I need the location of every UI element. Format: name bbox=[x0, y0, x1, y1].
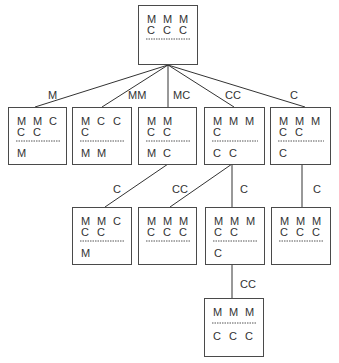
edge-label: MM bbox=[128, 89, 146, 101]
cannibal-token: C bbox=[17, 126, 25, 138]
cannibal-token: C bbox=[81, 126, 89, 138]
cannibal-token: C bbox=[113, 115, 121, 127]
cannibal-token: C bbox=[296, 226, 304, 238]
state-tree-diagram: MMMMCCCCCCCCCCC MMMCCCMMCCCMMCCCMMMMCCMC… bbox=[0, 0, 339, 363]
edge-n8-n10: CC bbox=[232, 264, 256, 298]
cannibal-token: C bbox=[81, 226, 89, 238]
state-node-n9: MMMCCC bbox=[272, 208, 331, 265]
cannibal-token: C bbox=[113, 215, 121, 227]
cannibal-token: C bbox=[213, 147, 221, 159]
cannibal-token: C bbox=[279, 147, 287, 159]
missionary-token: M bbox=[17, 147, 26, 159]
cannibal-token: C bbox=[213, 330, 221, 342]
cannibal-token: C bbox=[229, 330, 237, 342]
cannibal-token: C bbox=[312, 226, 320, 238]
edge-n3-n6: C bbox=[105, 164, 168, 207]
cannibal-token: C bbox=[230, 226, 238, 238]
cannibal-token: C bbox=[147, 24, 155, 36]
edge-n5-n9: C bbox=[302, 164, 321, 207]
state-node-n6: MMCCCM bbox=[73, 208, 132, 265]
missionary-token: M bbox=[229, 115, 238, 127]
edge-label: CC bbox=[240, 278, 256, 290]
edge-label: C bbox=[113, 183, 121, 195]
cannibal-token: C bbox=[214, 226, 222, 238]
edge-label: CC bbox=[172, 183, 188, 195]
cannibal-token: C bbox=[163, 126, 171, 138]
state-node-n2: MCCCMM bbox=[73, 108, 132, 165]
cannibal-token: C bbox=[49, 115, 57, 127]
cannibal-token: C bbox=[214, 247, 222, 259]
missionary-token: M bbox=[213, 306, 222, 318]
edge-label: MC bbox=[173, 89, 190, 101]
missionary-token: M bbox=[246, 215, 255, 227]
cannibal-token: C bbox=[280, 226, 288, 238]
edge-root-n2: MM bbox=[102, 65, 168, 107]
cannibal-token: C bbox=[179, 226, 187, 238]
edge-root-n1: M bbox=[35, 65, 168, 107]
cannibal-token: C bbox=[147, 126, 155, 138]
nodes-layer: MMMCCCMMCCCMMCCCMMMMCCMCMMMCCCMMMCCCMMCC… bbox=[9, 6, 331, 357]
edge-n4-n7: CC bbox=[170, 164, 232, 207]
cannibal-token: C bbox=[33, 126, 41, 138]
state-node-n4: MMMCCC bbox=[205, 108, 265, 165]
cannibal-token: C bbox=[245, 330, 253, 342]
cannibal-token: C bbox=[147, 226, 155, 238]
cannibal-token: C bbox=[295, 126, 303, 138]
cannibal-token: C bbox=[279, 126, 287, 138]
missionary-token: M bbox=[229, 306, 238, 318]
missionary-token: M bbox=[147, 147, 156, 159]
cannibal-token: C bbox=[213, 126, 221, 138]
state-node-n10: MMMCCC bbox=[205, 299, 264, 357]
cannibal-token: C bbox=[163, 226, 171, 238]
missionary-token: M bbox=[97, 147, 106, 159]
missionary-token: M bbox=[81, 247, 90, 259]
cannibal-token: C bbox=[163, 24, 171, 36]
cannibal-token: C bbox=[229, 147, 237, 159]
edge-label: CC bbox=[225, 89, 241, 101]
edge-label: C bbox=[313, 183, 321, 195]
missionary-token: M bbox=[245, 306, 254, 318]
state-node-n7: MMMCCC bbox=[139, 208, 197, 265]
cannibal-token: C bbox=[163, 147, 171, 159]
state-node-n3: MMCCMC bbox=[139, 108, 197, 165]
cannibal-token: C bbox=[97, 226, 105, 238]
missionary-token: M bbox=[245, 115, 254, 127]
state-node-n1: MMCCCM bbox=[9, 108, 67, 165]
edge-root-n3: MC bbox=[168, 65, 190, 107]
edge-n4-n8: C bbox=[232, 164, 248, 207]
state-node-root: MMMCCC bbox=[139, 6, 198, 65]
missionary-token: M bbox=[311, 115, 320, 127]
cannibal-token: C bbox=[179, 24, 187, 36]
edge-label: C bbox=[240, 183, 248, 195]
edge-label: C bbox=[290, 89, 298, 101]
cannibal-token: C bbox=[97, 115, 105, 127]
state-node-n8: MMMCCC bbox=[206, 208, 265, 265]
edge-label: M bbox=[48, 89, 57, 101]
state-node-n5: MMMCCC bbox=[271, 108, 331, 165]
missionary-token: M bbox=[81, 147, 90, 159]
